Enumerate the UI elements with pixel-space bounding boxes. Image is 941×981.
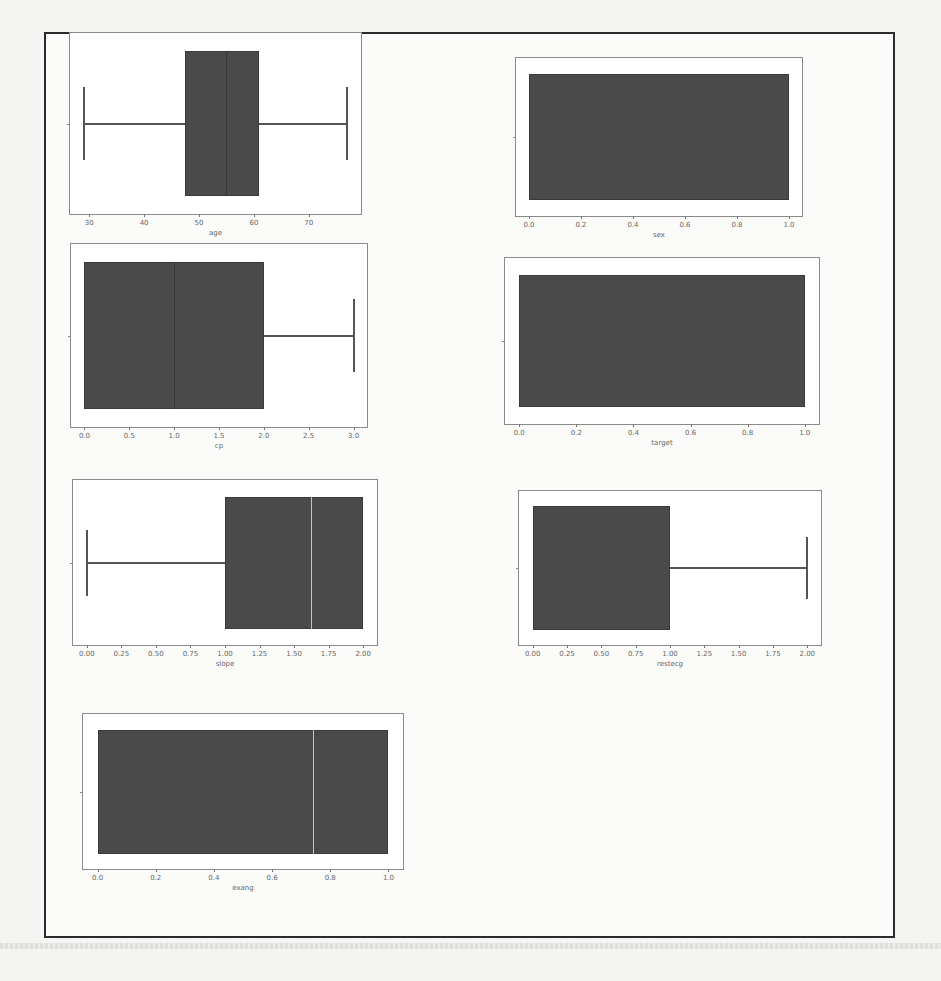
y-tick (68, 336, 71, 337)
x-tick-label: 60 (249, 219, 258, 227)
x-tick-label: 1.25 (252, 650, 268, 658)
x-tick (581, 216, 582, 219)
x-tick (199, 214, 200, 217)
x-tick-label: 70 (304, 219, 313, 227)
x-tick-label: 1.00 (662, 650, 678, 658)
x-tick-label: 0.0 (79, 432, 90, 440)
cap-high (806, 537, 808, 599)
plot-axes-sex: 0.00.20.40.60.81.0sex (515, 57, 803, 217)
x-tick-label: 1.75 (321, 650, 337, 658)
whisker-high (670, 567, 807, 569)
x-tick (329, 645, 330, 648)
plot-axes-age: 3040506070age (69, 32, 362, 215)
whisker-high (259, 123, 347, 125)
x-tick (260, 645, 261, 648)
x-tick-label: 0.4 (208, 874, 219, 882)
x-tick (309, 427, 310, 430)
x-tick (633, 424, 634, 427)
x-tick (190, 645, 191, 648)
x-tick-label: 1.0 (799, 429, 810, 437)
cap-high (346, 87, 348, 159)
x-tick (264, 427, 265, 430)
iqr-box-restecg (533, 506, 670, 629)
x-tick-label: 3.0 (348, 432, 359, 440)
x-tick (156, 645, 157, 648)
x-tick-label: 1.25 (697, 650, 713, 658)
iqr-box-target (519, 275, 804, 408)
x-tick (272, 869, 273, 872)
x-tick-label: 30 (85, 219, 94, 227)
median-line (313, 730, 314, 854)
x-axis-label: restecg (657, 660, 683, 668)
y-tick (502, 341, 505, 342)
x-tick (84, 427, 85, 430)
x-tick (354, 427, 355, 430)
x-tick-label: 0.6 (267, 874, 278, 882)
x-tick (129, 427, 130, 430)
x-tick-label: 1.0 (169, 432, 180, 440)
x-tick-label: 0.4 (627, 221, 638, 229)
x-tick-label: 0.6 (685, 429, 696, 437)
x-tick (737, 216, 738, 219)
x-tick-label: 0.8 (731, 221, 742, 229)
x-tick (807, 645, 808, 648)
whisker-high (264, 335, 354, 337)
x-tick-label: 0.25 (114, 650, 130, 658)
x-tick (529, 216, 530, 219)
x-axis-label: slope (216, 660, 235, 668)
x-tick (121, 645, 122, 648)
x-tick-label: 50 (195, 219, 204, 227)
x-tick (219, 427, 220, 430)
x-tick (254, 214, 255, 217)
x-tick (739, 645, 740, 648)
x-tick-label: 2.00 (355, 650, 371, 658)
plot-axes-restecg: 0.000.250.500.751.001.251.501.752.00rest… (518, 490, 822, 646)
x-axis-label: cp (215, 442, 223, 450)
x-tick (773, 645, 774, 648)
x-tick-label: 0.0 (92, 874, 103, 882)
x-tick (670, 645, 671, 648)
x-tick-label: 2.00 (799, 650, 815, 658)
x-tick-label: 1.5 (213, 432, 224, 440)
x-tick-label: 1.50 (286, 650, 302, 658)
whisker-low (84, 123, 186, 125)
median-line (174, 262, 175, 408)
x-tick (294, 645, 295, 648)
x-tick (533, 645, 534, 648)
x-tick-label: 0.0 (514, 429, 525, 437)
x-tick-label: 0.75 (183, 650, 199, 658)
x-tick-label: 0.6 (679, 221, 690, 229)
x-tick-label: 0.4 (628, 429, 639, 437)
iqr-box-sex (529, 74, 789, 200)
y-tick (70, 563, 73, 564)
cap-low (83, 87, 85, 159)
x-tick (519, 424, 520, 427)
median-line (311, 497, 312, 629)
x-tick-label: 2.0 (258, 432, 269, 440)
x-tick-label: 0.25 (559, 650, 575, 658)
x-tick-label: 0.5 (124, 432, 135, 440)
x-tick (567, 645, 568, 648)
y-tick (80, 792, 83, 793)
x-tick-label: 0.75 (628, 650, 644, 658)
x-tick (89, 214, 90, 217)
x-tick-label: 0.50 (148, 650, 164, 658)
y-tick (67, 124, 70, 125)
x-tick (309, 214, 310, 217)
cap-high (353, 299, 355, 372)
x-tick (330, 869, 331, 872)
x-tick-label: 1.00 (217, 650, 233, 658)
x-tick-label: 1.50 (731, 650, 747, 658)
x-tick (704, 645, 705, 648)
plot-axes-cp: 0.00.51.01.52.02.53.0cp (70, 243, 368, 428)
x-axis-label: target (651, 439, 672, 447)
x-tick (156, 869, 157, 872)
iqr-box-slope (225, 497, 363, 629)
x-tick (685, 216, 686, 219)
x-tick-label: 0.8 (325, 874, 336, 882)
x-tick-label: 0.2 (575, 221, 586, 229)
x-tick-label: 0.0 (523, 221, 534, 229)
x-tick (388, 869, 389, 872)
iqr-box-exang (98, 730, 389, 854)
x-axis-label: exang (232, 884, 254, 892)
